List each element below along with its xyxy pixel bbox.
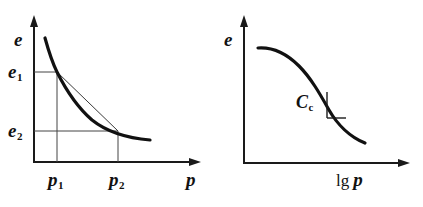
tick-label-e2: e2 xyxy=(8,121,22,140)
compression-index-symbol: C xyxy=(296,92,308,112)
x-axis-label: lgp xyxy=(336,170,363,189)
tick-label-p1: p1 xyxy=(48,170,63,189)
x-axis-label-prefix: lg xyxy=(336,171,349,190)
x-axis-arrow-icon xyxy=(398,159,410,167)
compression-index-subscript: c xyxy=(309,101,314,113)
x-axis-arrow-icon xyxy=(189,158,201,166)
y-axis-arrow-icon xyxy=(30,15,38,27)
y-axis-arrow-icon xyxy=(240,15,248,27)
tick-label-e1: e1 xyxy=(8,62,22,81)
panel-e-lgp-curve: e Cc lgp xyxy=(210,0,423,207)
tick-label-e1-sub: 1 xyxy=(17,71,23,83)
e-p-curve-svg xyxy=(0,0,213,207)
tick-label-e1-var: e xyxy=(8,61,16,82)
x-axis-label-variable: p xyxy=(353,169,363,190)
y-axis-label: e xyxy=(14,30,22,49)
tick-label-p2-var: p xyxy=(109,169,119,190)
y-axis-label: e xyxy=(224,30,232,49)
tick-label-p2: p2 xyxy=(109,170,124,189)
e-lgp-curve-svg xyxy=(210,0,423,207)
compression-curve xyxy=(45,38,150,140)
tick-label-e2-sub: 2 xyxy=(17,130,23,142)
figure-root: e e1 e2 p1 p2 p e Cc lgp xyxy=(0,0,423,207)
x-axis-label: p xyxy=(186,170,196,189)
panel-e-p-curve: e e1 e2 p1 p2 p xyxy=(0,0,213,207)
tick-label-p2-sub: 2 xyxy=(119,179,125,191)
tick-label-p1-sub: 1 xyxy=(58,179,64,191)
compression-index-annotation: Cc xyxy=(296,93,313,111)
secant-line xyxy=(57,72,118,131)
tick-label-p1-var: p xyxy=(48,169,58,190)
tick-label-e2-var: e xyxy=(8,120,16,141)
